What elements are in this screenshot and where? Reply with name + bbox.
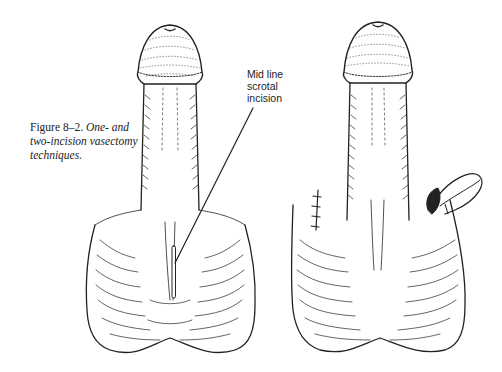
sutured-incision (311, 190, 321, 230)
leader-line (175, 108, 253, 263)
incision-mark (172, 246, 176, 298)
vasectomy-illustration (0, 0, 502, 372)
figure-label: Figure 8–2. (30, 121, 83, 133)
figure-caption: Figure 8–2. One- and two-incision vasect… (30, 120, 140, 162)
incision-callout: Mid line scrotal incision (247, 68, 307, 104)
left-figure-one-incision (86, 25, 255, 353)
callout-line-2: scrotal (247, 80, 307, 92)
callout-line-1: Mid line (247, 68, 307, 80)
right-figure-two-incision (291, 22, 481, 352)
callout-line-3: incision (247, 92, 307, 104)
vas-loop (427, 174, 482, 214)
